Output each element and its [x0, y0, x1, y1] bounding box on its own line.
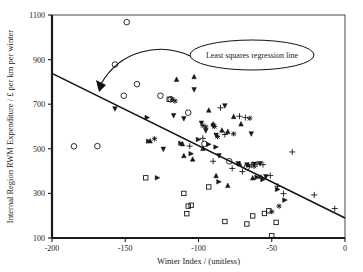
y-tick-label-1100: 1100	[29, 11, 45, 20]
data-point	[229, 165, 235, 171]
x-axis-tick-labels: -200 -150 -100 -50 0	[45, 244, 347, 253]
x-tick-label-0: 0	[343, 244, 347, 253]
y-tick-label-900: 900	[33, 56, 45, 65]
data-point	[171, 113, 176, 118]
data-point	[217, 105, 223, 111]
data-point	[187, 143, 193, 149]
data-point	[182, 153, 187, 158]
series-plus	[187, 105, 338, 212]
data-point	[206, 142, 211, 147]
data-point	[311, 192, 317, 198]
data-point	[252, 164, 257, 169]
data-point	[332, 206, 338, 212]
data-point	[250, 175, 255, 180]
data-point	[239, 121, 244, 126]
data-point	[269, 209, 274, 214]
data-point	[276, 204, 281, 209]
data-point	[185, 211, 189, 215]
data-point	[196, 137, 201, 142]
data-point	[210, 158, 216, 164]
data-point	[155, 175, 160, 180]
x-axis-title: Winter Index / (unitless)	[157, 256, 240, 266]
y-tick-label-500: 500	[33, 145, 45, 154]
data-point	[247, 116, 252, 121]
least-squares-regression-line	[52, 73, 345, 218]
data-point	[71, 144, 77, 150]
data-point	[251, 214, 255, 218]
data-point	[274, 220, 278, 224]
data-point	[144, 176, 148, 180]
data-point	[152, 136, 157, 141]
data-point	[262, 211, 266, 215]
data-point	[192, 74, 197, 79]
data-point	[95, 143, 101, 149]
y-axis-tick-labels: 1100 900 700 500 300 100	[29, 11, 45, 243]
data-point	[185, 110, 191, 116]
data-point	[182, 191, 186, 195]
data-point	[174, 77, 179, 82]
data-point	[189, 151, 194, 156]
data-point	[158, 93, 164, 99]
data-point	[206, 108, 211, 113]
y-tick-label-700: 700	[33, 100, 45, 109]
data-point	[283, 198, 288, 203]
series-square-open	[144, 97, 279, 238]
y-axis-title: Internal Region RWM Expenditure / £ per …	[5, 30, 15, 223]
annotation-callout: Least squares regression line	[96, 40, 314, 92]
data-point	[182, 117, 187, 122]
data-point	[134, 81, 140, 87]
data-point	[214, 173, 219, 178]
data-point	[289, 149, 295, 155]
data-point	[223, 219, 227, 223]
data-point	[231, 131, 236, 136]
data-point	[267, 173, 273, 179]
data-point	[215, 134, 220, 139]
data-point	[124, 19, 130, 25]
plot-frame	[52, 15, 345, 238]
data-point	[245, 222, 249, 226]
data-point	[220, 128, 225, 133]
data-point	[113, 107, 118, 112]
series-triangle-up	[148, 74, 255, 187]
annotation-label: Least squares regression line	[206, 51, 299, 60]
data-point	[192, 88, 197, 93]
y-tick-label-100: 100	[33, 234, 45, 243]
x-tick-label-minus150: -150	[118, 244, 133, 253]
data-point	[242, 115, 248, 121]
y-tick-label-300: 300	[33, 189, 45, 198]
data-point	[207, 185, 211, 189]
data-point	[239, 169, 245, 175]
data-point	[200, 135, 206, 141]
figure-container: 1100 900 700 500 300 100 -200 -150 -100 …	[0, 0, 363, 272]
data-point	[249, 132, 254, 137]
x-tick-label-minus50: -50	[266, 244, 277, 253]
data-point	[217, 180, 222, 185]
data-point	[203, 124, 208, 129]
annotation-arrow-head	[96, 80, 106, 92]
data-point	[226, 183, 231, 188]
data-point	[161, 147, 166, 152]
data-point	[121, 93, 127, 99]
scatter-chart: 1100 900 700 500 300 100 -200 -150 -100 …	[0, 0, 363, 272]
data-point	[172, 98, 177, 103]
data-point	[231, 114, 236, 119]
x-tick-label-minus100: -100	[191, 244, 206, 253]
data-point	[280, 191, 286, 197]
x-tick-label-minus200: -200	[45, 244, 60, 253]
data-point	[226, 129, 231, 134]
data-point	[190, 157, 195, 162]
data-point	[237, 113, 243, 119]
data-point	[212, 124, 217, 129]
data-point	[214, 145, 219, 150]
